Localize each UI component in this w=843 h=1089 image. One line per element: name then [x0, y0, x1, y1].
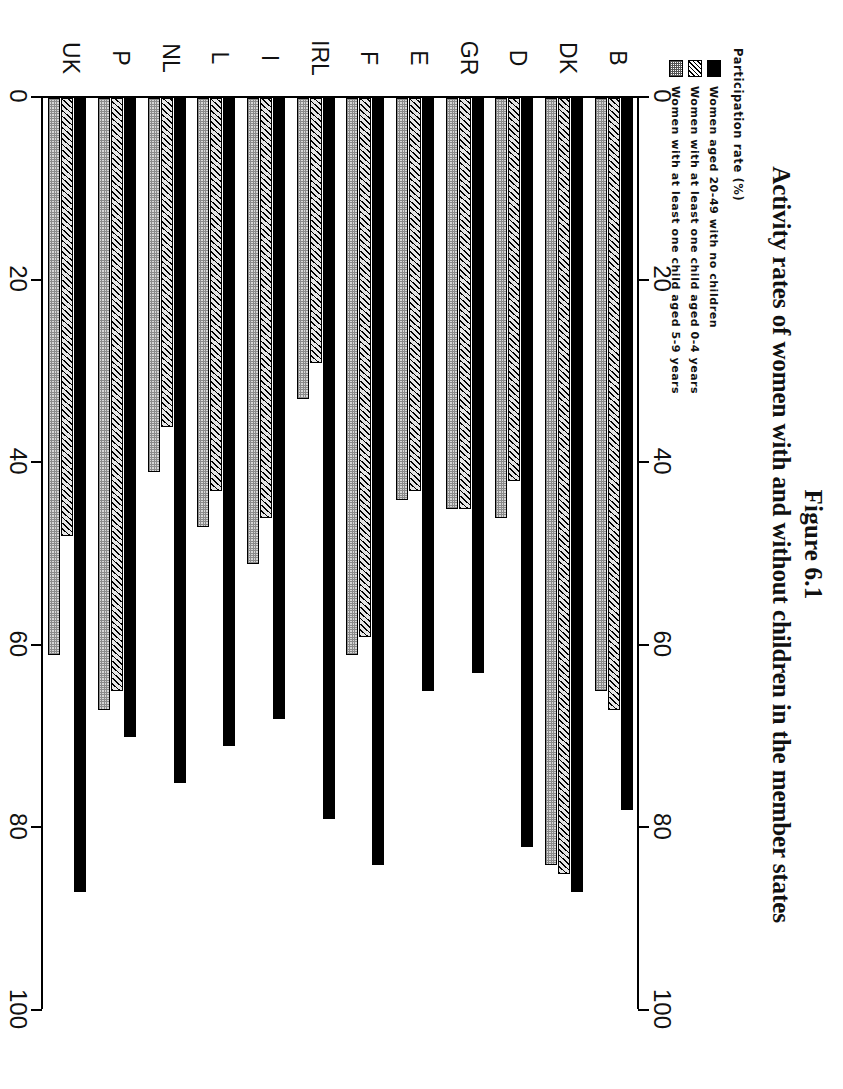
- chart-legend: Women aged 20-49 with no childrenWomen w…: [664, 60, 721, 394]
- category-label: GR: [455, 41, 482, 76]
- legend-swatch-icon: [669, 60, 683, 77]
- bar-group: GR: [440, 98, 484, 1011]
- category-label: I: [256, 55, 283, 61]
- axis-tick-label: 100: [648, 989, 676, 1029]
- legend-item: Women aged 20-49 with no children: [707, 60, 721, 394]
- bar: [148, 98, 160, 472]
- bar: [323, 98, 335, 819]
- bar-group: DK: [539, 98, 583, 1011]
- figure-number: Figure 6.1: [799, 0, 827, 1089]
- bar: [346, 98, 358, 655]
- bar-group: NL: [142, 98, 186, 1011]
- axis-tick: [31, 279, 42, 281]
- bar: [446, 98, 458, 509]
- bar-group: B: [589, 98, 633, 1011]
- bar-group: L: [191, 98, 235, 1011]
- bar: [74, 98, 86, 892]
- axis-tick-label: 60: [4, 630, 32, 657]
- bar: [396, 98, 408, 500]
- bar: [273, 98, 285, 719]
- bar: [223, 98, 235, 746]
- bar-group: P: [92, 98, 136, 1011]
- axis-tick: [31, 461, 42, 463]
- category-label: F: [355, 51, 382, 65]
- bar: [372, 98, 384, 865]
- bar: [558, 98, 570, 874]
- bar: [297, 98, 309, 399]
- category-label: UK: [57, 42, 84, 74]
- axis-top-rule: [637, 96, 639, 1009]
- category-label: NL: [157, 43, 184, 72]
- bar: [98, 98, 110, 710]
- category-label: DK: [554, 42, 581, 74]
- axis-tick-label: 100: [4, 989, 32, 1029]
- bar: [174, 98, 186, 783]
- bar: [161, 98, 173, 427]
- bar: [621, 98, 633, 810]
- figure-title: Activity rates of women with and without…: [767, 0, 795, 1089]
- legend-item: Women with at least one child aged 5-9 y…: [669, 60, 683, 394]
- legend-swatch-icon: [707, 60, 721, 77]
- axis-tick: [31, 1009, 42, 1011]
- axis-tick-label: 0: [648, 89, 676, 102]
- bar: [61, 98, 73, 536]
- category-label: P: [107, 50, 134, 65]
- bar-group: UK: [42, 98, 86, 1011]
- legend-item: Women with at least one child aged 0-4 y…: [688, 60, 702, 394]
- axis-tick-label: 40: [4, 448, 32, 475]
- axis-tick-label: 20: [648, 265, 676, 292]
- axis-tick: [31, 96, 42, 98]
- bar: [247, 98, 259, 564]
- bar-group: I: [241, 98, 285, 1011]
- bar: [210, 98, 222, 491]
- bar: [197, 98, 209, 527]
- bar-group: F: [340, 98, 384, 1011]
- bar: [310, 98, 322, 363]
- category-label: D: [504, 50, 531, 67]
- axis-tick-label: 80: [4, 813, 32, 840]
- bar: [111, 98, 123, 691]
- bar: [595, 98, 607, 691]
- legend-swatch-icon: [688, 60, 702, 77]
- legend-label: Women aged 20-49 with no children: [708, 86, 721, 328]
- axis-tick: [31, 644, 42, 646]
- axis-tick-label: 20: [4, 265, 32, 292]
- bar: [359, 98, 371, 637]
- bar: [48, 98, 60, 655]
- category-label: IRL: [306, 40, 333, 76]
- bar: [409, 98, 421, 491]
- bar: [508, 98, 520, 481]
- category-label: B: [604, 50, 631, 65]
- bar: [521, 98, 533, 847]
- axis-tick-label: 80: [648, 813, 676, 840]
- legend-label: Women with at least one child aged 5-9 y…: [670, 86, 683, 394]
- bar-group: IRL: [291, 98, 335, 1011]
- axis-tick-label: 0: [4, 89, 32, 102]
- legend-label: Women with at least one child aged 0-4 y…: [689, 86, 702, 394]
- rotated-figure-wrapper: Figure 6.1 Activity rates of women with …: [0, 0, 843, 1089]
- bar: [608, 98, 620, 710]
- bar-group: D: [489, 98, 533, 1011]
- axis-tick-label: 40: [648, 448, 676, 475]
- bar: [545, 98, 557, 865]
- axis-tick: [31, 826, 42, 828]
- category-label: E: [405, 50, 432, 65]
- bar: [124, 98, 136, 737]
- bar: [472, 98, 484, 673]
- category-label: L: [206, 52, 233, 65]
- bar-group: E: [390, 98, 434, 1011]
- figure-canvas: Figure 6.1 Activity rates of women with …: [0, 0, 843, 1089]
- plot-area: 002020404060608080100100 BDKDGREFIRLILNL…: [42, 96, 638, 1009]
- axis-caption: Participation rate (%): [731, 48, 745, 201]
- bar: [422, 98, 434, 691]
- axis-tick-label: 60: [648, 630, 676, 657]
- bar: [495, 98, 507, 518]
- bar: [260, 98, 272, 518]
- bar: [571, 98, 583, 892]
- bar: [459, 98, 471, 509]
